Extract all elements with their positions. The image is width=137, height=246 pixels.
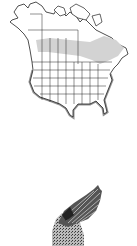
wing-illustration: [0, 123, 137, 246]
north-america-map: [0, 0, 137, 123]
range-map: [0, 0, 137, 123]
bird-wing-icon: [0, 123, 137, 246]
